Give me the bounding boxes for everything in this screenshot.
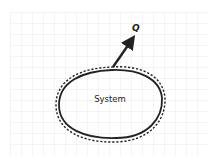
grid-background (10, 12, 208, 155)
heat-label: Q (132, 23, 140, 33)
system-label: System (88, 94, 132, 104)
system-diagram (0, 0, 220, 163)
